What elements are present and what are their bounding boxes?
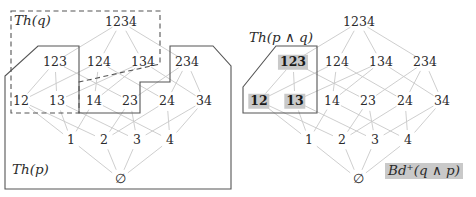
left-lattice-node-1: 1 [67,134,75,147]
left-lattice-node-123: 123 [43,56,67,69]
figure-root: 12341231241342341213142324341234∅ 123412… [0,0,476,197]
left-lattice-node-0: ∅ [115,173,126,186]
right-lattice-node-1: 1 [305,134,313,147]
left-lattice-node-12: 12 [13,95,29,108]
right-lattice-node-13: 13 [284,94,305,109]
left-region-label-th-p: Th(p) [12,163,49,177]
right-lattice-node-34: 34 [434,95,450,108]
left-lattice-node-14: 14 [86,95,102,108]
right-lattice-node-124: 124 [325,56,349,69]
left-lattice-node-13: 13 [49,95,65,108]
right-lattice-node-0: ∅ [353,173,364,186]
left-lattice-node-4: 4 [166,134,174,147]
left-lattice-node-2: 2 [100,134,108,147]
right-lattice-node-123: 123 [278,55,308,70]
right-lattice-node-24: 24 [397,95,413,108]
left-region-label-th-q: Th(q) [14,14,51,28]
left-lattice-node-24: 24 [159,95,175,108]
right-lattice-node-134: 134 [369,56,393,69]
right-lattice-node-3: 3 [371,134,379,147]
left-lattice-node-134: 134 [131,56,155,69]
right-lattice-node-2: 2 [338,134,346,147]
left-lattice-node-124: 124 [87,56,111,69]
left-lattice-node-34: 34 [196,95,212,108]
right-region-label-th-p-and-q: Th(p ∧ q) [249,31,313,45]
left-lattice-node-234: 234 [175,56,199,69]
right-lattice-node-23: 23 [360,95,376,108]
left-lattice-node-23: 23 [122,95,138,108]
right-badge-bd-plus: Bd⁺(q ∧ p) [385,163,463,179]
left-lattice-node-3: 3 [133,134,141,147]
right-lattice-node-4: 4 [404,134,412,147]
right-lattice-node-12: 12 [248,94,269,109]
right-lattice-node-1234: 1234 [343,16,375,29]
right-lattice-node-14: 14 [324,95,340,108]
left-lattice-node-1234: 1234 [105,16,137,29]
right-lattice-node-234: 234 [413,56,437,69]
